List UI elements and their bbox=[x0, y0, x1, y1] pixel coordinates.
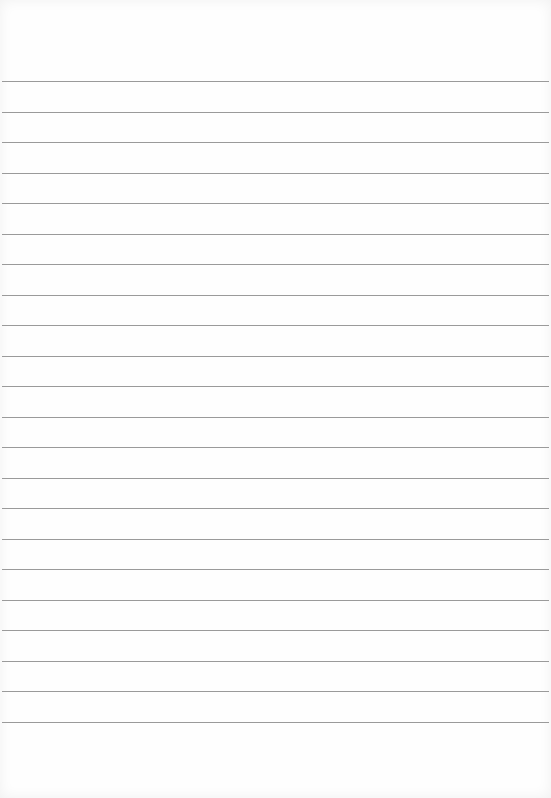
ruled-line bbox=[2, 81, 549, 82]
ruled-line bbox=[2, 722, 549, 723]
ruled-line bbox=[2, 661, 549, 662]
ruled-line bbox=[2, 295, 549, 296]
lined-paper-sheet bbox=[0, 0, 551, 798]
ruled-line bbox=[2, 356, 549, 357]
ruled-line bbox=[2, 630, 549, 631]
ruled-line bbox=[2, 234, 549, 235]
ruled-line bbox=[2, 508, 549, 509]
ruled-line bbox=[2, 478, 549, 479]
ruled-line bbox=[2, 203, 549, 204]
ruled-line bbox=[2, 600, 549, 601]
ruled-line bbox=[2, 264, 549, 265]
ruled-line bbox=[2, 173, 549, 174]
ruled-line bbox=[2, 539, 549, 540]
ruled-line bbox=[2, 569, 549, 570]
ruled-line bbox=[2, 386, 549, 387]
ruled-line bbox=[2, 417, 549, 418]
ruled-line bbox=[2, 142, 549, 143]
ruled-line bbox=[2, 325, 549, 326]
ruled-line bbox=[2, 112, 549, 113]
ruled-line bbox=[2, 447, 549, 448]
ruled-line bbox=[2, 691, 549, 692]
